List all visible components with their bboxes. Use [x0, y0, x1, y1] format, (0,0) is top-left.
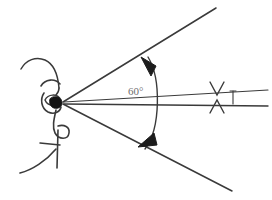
lower-sight-ray — [63, 104, 232, 191]
arc-arrowhead-bottom — [138, 133, 157, 147]
arc-arrowhead-top — [141, 57, 156, 76]
sight-wedge-upper-line — [64, 90, 268, 102]
head-profile-outline — [21, 58, 59, 88]
figure-canvas: 60° — [0, 0, 272, 200]
forehead-curve — [56, 88, 59, 95]
angle-arc-group — [138, 57, 157, 149]
field-of-view-diagram — [0, 0, 272, 200]
face-vertical-edge — [57, 130, 58, 168]
angle-label: 60° — [128, 85, 143, 97]
target-marks-group — [210, 82, 236, 113]
eye-pupil — [50, 97, 62, 108]
head-profile-group — [20, 58, 69, 173]
sight-wedge-lower-line — [64, 104, 268, 106]
target-cross-lower — [210, 100, 224, 113]
eyebrow-curve — [41, 80, 60, 86]
nose-curve — [53, 110, 69, 138]
chin-line — [20, 149, 56, 173]
sight-rays-group — [63, 8, 268, 191]
